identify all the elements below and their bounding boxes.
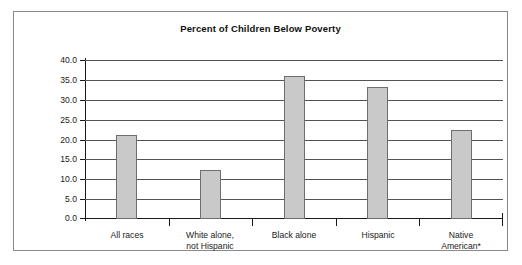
y-axis-tick bbox=[80, 80, 85, 81]
x-axis-category-label: All races bbox=[111, 230, 144, 241]
plot-area: 40.035.030.025.020.015.010.05.00.0 bbox=[85, 60, 503, 219]
x-axis-category-label-line: Hispanic bbox=[362, 230, 395, 241]
x-axis-category-separator bbox=[169, 219, 170, 226]
chart-screenshot: Percent of Children Below Poverty 40.035… bbox=[0, 0, 522, 265]
y-axis-tick-label: 0.0 bbox=[65, 213, 77, 223]
x-axis-category-label: White alone,not Hispanic bbox=[186, 230, 234, 252]
bar bbox=[116, 135, 137, 219]
chart-title: Percent of Children Below Poverty bbox=[14, 23, 507, 34]
x-axis-category-label: Hispanic bbox=[362, 230, 395, 241]
bar bbox=[367, 87, 388, 219]
x-axis-category-separator bbox=[502, 219, 503, 226]
y-axis-tick-label: 40.0 bbox=[60, 55, 77, 65]
y-axis-tick-label: 35.0 bbox=[60, 75, 77, 85]
x-axis-category-separator bbox=[252, 219, 253, 226]
y-axis-tick bbox=[80, 179, 85, 180]
x-axis-category-separator bbox=[336, 219, 337, 226]
y-axis-tick bbox=[80, 120, 85, 121]
y-axis-tick bbox=[80, 199, 85, 200]
y-axis-tick bbox=[80, 140, 85, 141]
x-axis-category-label-line: not Hispanic bbox=[186, 241, 234, 252]
gridline: 40.0 bbox=[85, 60, 503, 61]
x-axis-category-label: NativeAmerican* bbox=[441, 230, 481, 252]
y-axis-tick-label: 25.0 bbox=[60, 115, 77, 125]
bar bbox=[200, 170, 221, 219]
x-axis-labels: All racesWhite alone,not HispanicBlack a… bbox=[85, 219, 503, 263]
bar bbox=[284, 76, 305, 219]
y-axis-tick-label: 20.0 bbox=[60, 135, 77, 145]
x-axis-category-label-line: American* bbox=[441, 241, 481, 252]
y-axis-tick-label: 30.0 bbox=[60, 95, 77, 105]
x-axis-category-label-line: Native bbox=[441, 230, 481, 241]
x-axis-category-separator bbox=[419, 219, 420, 226]
y-axis-tick bbox=[80, 100, 85, 101]
x-axis-category-label-line: Black alone bbox=[272, 230, 316, 241]
y-axis-tick bbox=[80, 60, 85, 61]
y-axis-tick-label: 15.0 bbox=[60, 154, 77, 164]
x-axis-category-label-line: All races bbox=[111, 230, 144, 241]
bar bbox=[451, 130, 472, 219]
chart-frame: Percent of Children Below Poverty 40.035… bbox=[13, 11, 508, 251]
y-axis-tick-label: 5.0 bbox=[65, 194, 77, 204]
y-axis-tick-label: 10.0 bbox=[60, 174, 77, 184]
y-axis-tick bbox=[80, 159, 85, 160]
x-axis-category-label-line: White alone, bbox=[186, 230, 234, 241]
x-axis-category-label: Black alone bbox=[272, 230, 316, 241]
